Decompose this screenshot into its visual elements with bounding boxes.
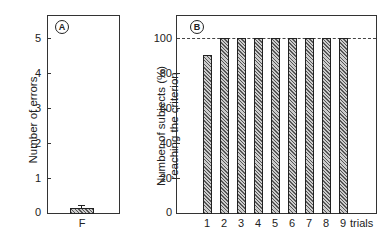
x-label: 1 <box>200 218 214 229</box>
bar-trial-5 <box>271 38 280 214</box>
y-tick-label: 1 <box>17 173 41 184</box>
y-tick <box>47 178 51 179</box>
y-tick-label: 5 <box>17 33 41 44</box>
y-tick <box>47 143 51 144</box>
x-label: 6 <box>285 218 299 229</box>
x-label: 8 <box>319 218 333 229</box>
panel-a-frame <box>47 15 120 214</box>
panel-a-badge: A <box>55 20 69 34</box>
x-label: 3 <box>234 218 248 229</box>
y-tick <box>176 143 180 144</box>
bar-trial-9 <box>339 38 348 214</box>
y-tick <box>47 73 51 74</box>
bar-f <box>70 208 94 214</box>
x-label-f: F <box>75 218 89 229</box>
bar-trial-1 <box>203 55 212 214</box>
y-tick-label: 0 <box>148 207 172 218</box>
y-tick <box>176 108 180 109</box>
bar-trial-6 <box>288 38 297 214</box>
x-label: 9 <box>336 218 350 229</box>
x-label: 5 <box>268 218 282 229</box>
y-tick <box>47 38 51 39</box>
bar-trial-4 <box>254 38 263 214</box>
y-tick-label: 3 <box>17 103 41 114</box>
panel-b-badge: B <box>190 20 204 34</box>
y-tick-label: 40 <box>148 138 172 149</box>
bar-trial-2 <box>220 38 229 214</box>
y-tick-label: 2 <box>17 138 41 149</box>
bar-trial-8 <box>322 38 331 214</box>
x-label: 7 <box>302 218 316 229</box>
y-tick-label: 0 <box>17 207 41 218</box>
y-tick-label: 20 <box>148 173 172 184</box>
bar-trial-7 <box>305 38 314 214</box>
y-tick-label: 80 <box>148 68 172 79</box>
y-tick-label: 100 <box>148 33 172 44</box>
y-tick <box>47 108 51 109</box>
bar-trial-3 <box>237 38 246 214</box>
y-tick-label: 4 <box>17 68 41 79</box>
x-unit-label: trials <box>350 218 373 229</box>
x-label: 4 <box>251 218 265 229</box>
x-label: 2 <box>217 218 231 229</box>
y-tick <box>176 73 180 74</box>
y-tick-label: 60 <box>148 103 172 114</box>
error-bar-cap <box>78 205 85 206</box>
y-tick <box>176 178 180 179</box>
